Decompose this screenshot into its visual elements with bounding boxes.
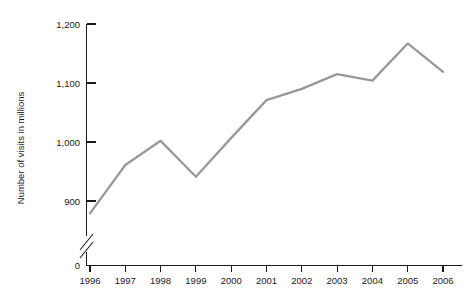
y-tick-label-1200: 1,200 xyxy=(56,19,80,30)
x-tick-label-2005: 2005 xyxy=(397,275,418,286)
chart-canvas: 1,200 1,100 1,000 900 0 Number of visits… xyxy=(0,0,474,303)
y-tick-label-0: 0 xyxy=(75,260,80,271)
x-tick-label-1999: 1999 xyxy=(185,275,206,286)
x-tick-label-1998: 1998 xyxy=(150,275,171,286)
y-axis-title: Number of visits in millions xyxy=(15,92,26,205)
y-tick-label-1000: 1,000 xyxy=(56,137,80,148)
x-tick-label-2002: 2002 xyxy=(291,275,312,286)
line-chart-figure: 1,200 1,100 1,000 900 0 Number of visits… xyxy=(0,0,474,303)
x-tick-labels: 1996 1997 1998 1999 2000 2001 2002 2003 … xyxy=(79,275,453,286)
x-tick-marks xyxy=(90,266,443,273)
y-tick-label-900: 900 xyxy=(64,196,80,207)
x-tick-label-2001: 2001 xyxy=(256,275,277,286)
x-tick-label-2004: 2004 xyxy=(362,275,383,286)
x-tick-label-1997: 1997 xyxy=(115,275,136,286)
data-series-line xyxy=(90,43,443,213)
x-tick-label-2003: 2003 xyxy=(327,275,348,286)
x-tick-label-2006: 2006 xyxy=(432,275,453,286)
x-tick-label-2000: 2000 xyxy=(221,275,242,286)
x-tick-label-1996: 1996 xyxy=(79,275,100,286)
axis-break-slash-upper xyxy=(80,234,93,250)
y-tick-label-1100: 1,100 xyxy=(56,78,80,89)
